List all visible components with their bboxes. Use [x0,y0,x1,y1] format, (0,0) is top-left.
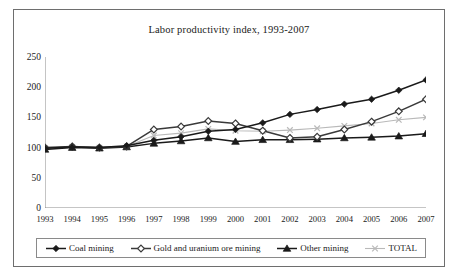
plot-wrapper: 050100150200250 199319941995199619971998… [45,57,426,208]
x-axis-tick-label: 1996 [118,214,135,224]
x-axis-tick-label: 1995 [91,214,108,224]
legend-label: Gold and uranium ore mining [154,244,261,253]
x-axis-tick-label: 1999 [200,214,217,224]
y-axis-tick-label: 0 [36,203,41,213]
legend-marker-icon [130,243,152,254]
x-axis-tick-label: 1994 [64,214,81,224]
y-axis-tick-label: 250 [27,52,41,62]
legend-label: Other mining [300,244,348,253]
chart-legend: Coal miningGold and uranium ore miningOt… [36,238,426,258]
chart-figure: Labor productivity index, 1993-2007 0501… [13,9,445,267]
x-axis-tick-label: 2003 [309,214,326,224]
plot-area [45,57,426,208]
x-axis-tick-label: 2006 [390,214,407,224]
x-axis-tick-label: 1993 [36,214,53,224]
y-axis-tick-label: 100 [27,143,41,153]
x-axis-tick-label: 2007 [417,214,434,224]
x-axis-tick-label: 2002 [281,214,298,224]
y-axis-tick-label: 150 [27,112,41,122]
legend-label: TOTAL [388,244,417,253]
legend-marker-icon [45,243,67,254]
legend-marker-icon [364,243,386,254]
x-axis-tick-label: 2005 [363,214,380,224]
x-axis-tick-label: 2001 [254,214,271,224]
x-axis-tick-label: 2000 [227,214,244,224]
y-axis-tick-label: 200 [27,82,41,92]
legend-label: Coal mining [69,244,114,253]
legend-item[interactable]: TOTAL [364,243,417,254]
legend-item[interactable]: Coal mining [45,243,114,254]
x-axis-tick-label: 1997 [145,214,162,224]
chart-title: Labor productivity index, 1993-2007 [14,24,444,35]
x-axis-tick-label: 1998 [172,214,189,224]
legend-item[interactable]: Gold and uranium ore mining [130,243,261,254]
y-axis-tick-label: 50 [32,173,42,183]
legend-item[interactable]: Other mining [276,243,348,254]
chart-svg [45,57,426,208]
x-axis-tick-label: 2004 [336,214,353,224]
legend-marker-icon [276,243,298,254]
